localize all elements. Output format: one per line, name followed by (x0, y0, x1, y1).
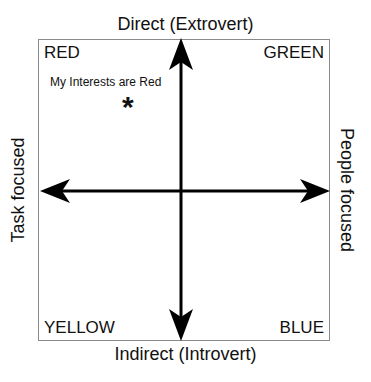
quadrant-label-green: GREEN (264, 43, 324, 63)
quadrant-label-yellow: YELLOW (44, 318, 115, 338)
quadrant-label-blue: BLUE (280, 318, 324, 338)
axis-label-top: Direct (Extrovert) (0, 14, 371, 35)
quadrant-label-red: RED (44, 43, 80, 63)
axis-label-bottom: Indirect (Introvert) (0, 344, 371, 365)
annotation-text: My Interests are Red (50, 75, 161, 89)
asterisk-marker-icon: * (122, 92, 134, 122)
